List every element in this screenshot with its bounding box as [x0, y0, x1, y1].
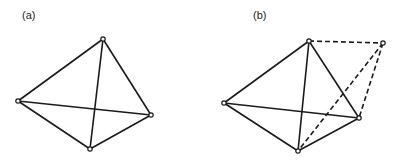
- vertex-node: [381, 41, 385, 45]
- panel-a: [16, 37, 153, 151]
- vertex-node: [149, 113, 153, 117]
- vertex-node: [101, 37, 105, 41]
- vertex-node: [296, 149, 300, 153]
- dashed-edge: [309, 41, 383, 43]
- vertex-node: [307, 39, 311, 43]
- solid-edge: [103, 39, 151, 115]
- vertex-node: [88, 147, 92, 151]
- solid-edge: [90, 115, 151, 149]
- dashed-edge: [298, 43, 383, 151]
- solid-edge: [90, 39, 103, 149]
- vertex-node: [357, 116, 361, 120]
- solid-edge: [18, 101, 151, 115]
- solid-edge: [18, 39, 103, 101]
- vertex-node: [16, 99, 20, 103]
- tetrahedron-diagrams: [0, 0, 399, 167]
- vertex-node: [222, 101, 226, 105]
- solid-edge: [298, 118, 359, 151]
- dashed-edge: [359, 43, 383, 118]
- panel-b: [222, 39, 385, 153]
- solid-edge: [298, 41, 309, 151]
- solid-edge: [224, 41, 309, 103]
